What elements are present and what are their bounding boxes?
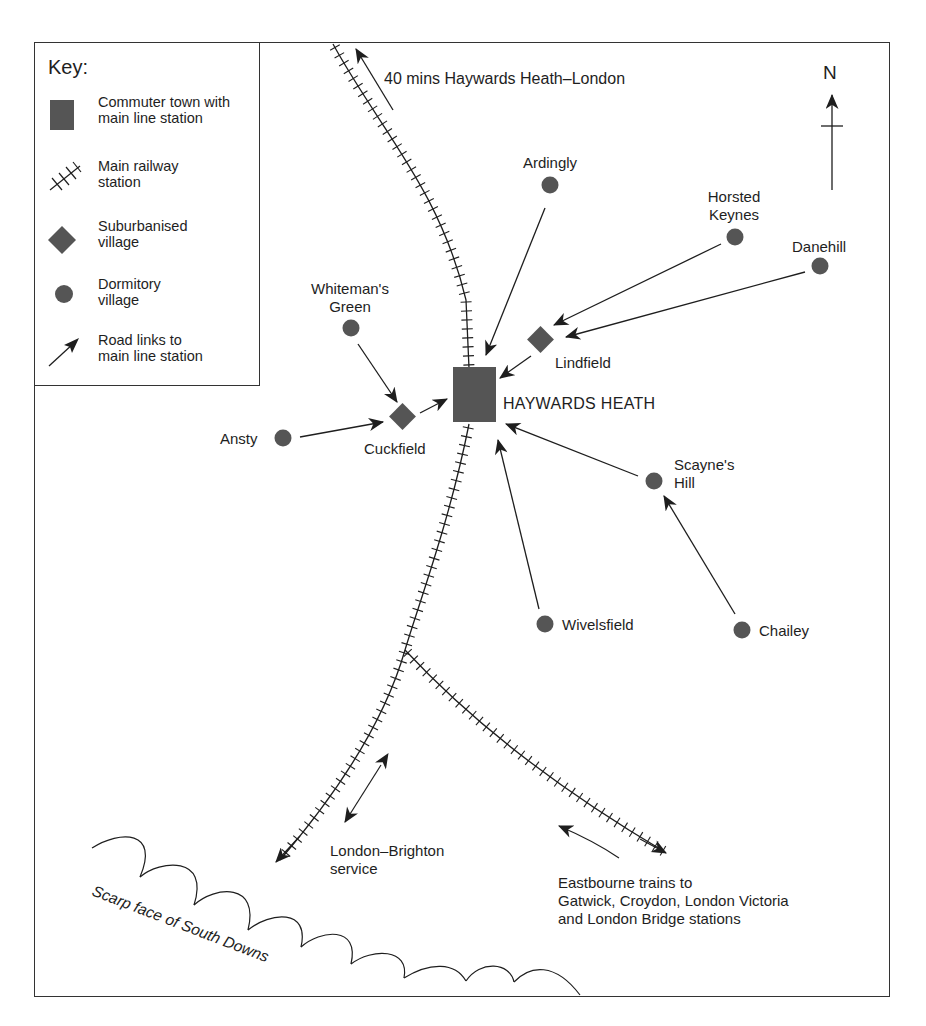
eastbourne-service-label: Eastbourne trains to Gatwick, Croydon, L…	[558, 874, 789, 928]
filled-circle-icon	[46, 278, 82, 314]
whitemans-green-label: Whiteman's Green	[300, 280, 400, 316]
key-item-road-link: Road links to main line station	[34, 332, 260, 376]
key-item-commuter-town: Commuter town with main line station	[34, 94, 260, 138]
london-time-label: 40 mins Haywards Heath–London	[384, 70, 625, 88]
arrow-icon	[46, 334, 82, 370]
filled-diamond-icon	[46, 220, 82, 256]
chailey-label: Chailey	[759, 622, 809, 640]
key-item-railway: Main railway station	[34, 158, 260, 202]
railway-track-icon	[46, 160, 82, 196]
lindfield-label: Lindfield	[555, 354, 611, 372]
key-label: Suburbanised village	[98, 218, 188, 250]
key-title: Key:	[48, 56, 88, 79]
haywards-heath-label: HAYWARDS HEATH	[503, 395, 655, 413]
ardingly-label: Ardingly	[512, 154, 588, 172]
key-item-dormitory-village: Dormitory village	[34, 276, 260, 320]
horsted-keynes-label: Horsted Keynes	[695, 188, 773, 224]
scaynes-hill-label: Scayne's Hill	[674, 456, 734, 492]
brighton-service-label: London–Brighton service	[330, 842, 444, 878]
key-label: Road links to main line station	[98, 332, 203, 364]
map-key: Key: Commuter town with main line statio…	[34, 42, 260, 386]
key-label: Dormitory village	[98, 276, 161, 308]
compass-label: N	[823, 64, 837, 82]
key-label: Main railway station	[98, 158, 179, 190]
ansty-label: Ansty	[220, 430, 258, 448]
filled-square-icon	[46, 96, 82, 132]
key-label: Commuter town with main line station	[98, 94, 230, 126]
danehill-label: Danehill	[792, 238, 846, 256]
cuckfield-label: Cuckfield	[364, 440, 426, 458]
wivelsfield-label: Wivelsfield	[562, 616, 634, 634]
key-item-suburbanised-village: Suburbanised village	[34, 218, 260, 262]
